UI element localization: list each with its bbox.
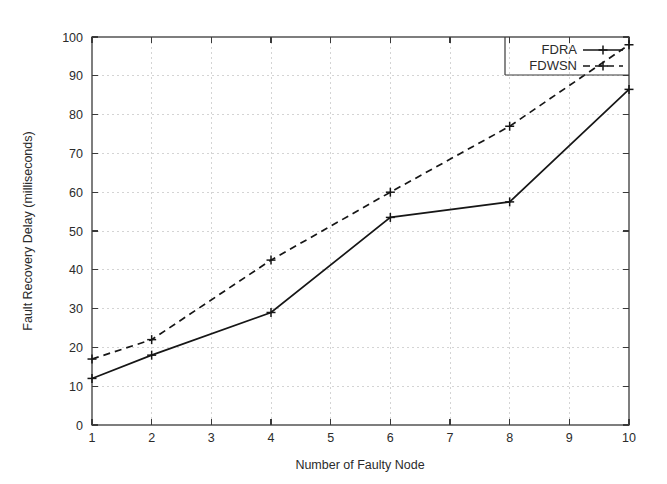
y-tick-label: 60 [69,186,83,200]
x-tick-label: 2 [148,431,155,445]
series-line-fdwsn [92,45,629,359]
x-tick-label: 9 [566,431,573,445]
series-markers-fdra [88,85,634,383]
y-tick-label: 80 [69,108,83,122]
y-tick-labels: 0102030405060708090100 [62,31,83,433]
x-tick-label: 10 [622,431,636,445]
series-line-fdra [92,89,629,378]
x-tick-label: 5 [327,431,334,445]
y-gridlines [92,76,629,386]
series-markers-fdwsn [88,40,634,363]
x-tick-label: 6 [387,431,394,445]
y-tick-label: 50 [69,225,83,239]
y-tick-label: 20 [69,341,83,355]
y-tick-label: 0 [76,419,83,433]
y-tick-label: 90 [69,69,83,83]
y-tick-label: 30 [69,302,83,316]
legend-label-fdwsn: FDWSN [529,58,577,73]
x-tick-label: 1 [89,431,96,445]
chart-container: 12345678910 0102030405060708090100 FDRAF… [0,0,667,484]
x-tick-label: 8 [506,431,513,445]
x-tick-label: 4 [268,431,275,445]
y-tick-label: 10 [69,380,83,394]
chart-legend: FDRAFDWSN [505,37,629,75]
y-tick-label: 100 [62,31,83,45]
data-series-layer [88,40,634,383]
line-chart: 12345678910 0102030405060708090100 FDRAF… [0,0,667,484]
y-tick-label: 70 [69,147,83,161]
y-axis-title: Fault Recovery Delay (milliseconds) [21,131,35,330]
x-gridlines [152,37,570,425]
x-axis-title: Number of Faulty Node [295,458,424,472]
x-tick-label: 3 [208,431,215,445]
x-tick-label: 7 [447,431,454,445]
x-tick-labels: 12345678910 [89,431,636,445]
y-tick-label: 40 [69,263,83,277]
legend-label-fdra: FDRA [542,42,578,57]
